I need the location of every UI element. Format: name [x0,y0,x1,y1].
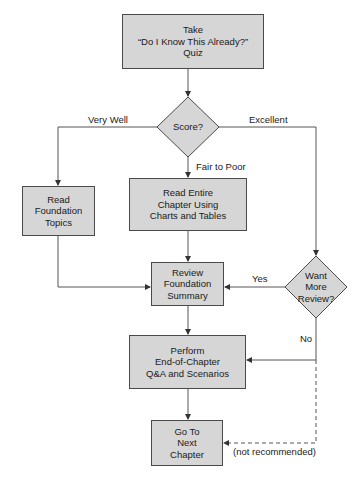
next-chapter-text: Go To Next Chapter [170,426,204,461]
take-quiz-box: Take “Do I Know This Already?” Quiz [122,14,264,69]
edge-score-to-foundation [58,127,157,185]
flowchart-connectors [0,0,363,481]
score-text: Score? [173,121,203,133]
read-entire-text: Read Entire Chapter Using Charts and Tab… [150,187,226,222]
score-decision: Score? [157,97,219,157]
take-quiz-text: Take “Do I Know This Already?” Quiz [138,24,248,59]
read-foundation-text: Read Foundation Topics [35,194,83,229]
read-entire-box: Read Entire Chapter Using Charts and Tab… [129,178,247,231]
read-foundation-box: Read Foundation Topics [22,186,95,236]
label-very-well: Very Well [88,114,128,125]
want-more-text: Want More Review? [298,270,334,305]
want-more-decision: Want More Review? [285,256,347,318]
label-no: No [300,333,312,344]
perform-qa-text: Perform End-of-Chapter Q&A and Scenarios [146,345,229,380]
label-yes: Yes [252,273,268,284]
edge-foundation-to-review [58,236,150,287]
label-excellent: Excellent [249,114,288,125]
review-summary-box: Review Foundation Summary [151,262,224,306]
label-not-recommended: (not recommended) [233,446,316,457]
perform-qa-box: Perform End-of-Chapter Q&A and Scenarios [129,335,246,389]
label-fair-to-poor: Fair to Poor [196,161,246,172]
next-chapter-box: Go To Next Chapter [151,420,223,466]
review-summary-text: Review Foundation Summary [164,267,212,302]
